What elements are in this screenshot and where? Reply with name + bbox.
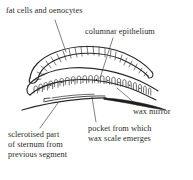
label-sclerotised-part-of-sternum: sclerotised partof sternum fromprevious … [8,130,67,161]
leader-pocket [92,97,96,122]
label-sclerotised-line-2: of sternum from [8,140,67,150]
label-pocket-line-1: pocket from which [88,124,152,134]
label-pocket-from-which-wax-scale-emerges: pocket from whichwax scale emerges [88,124,152,144]
columnar-left-tip [27,86,30,95]
label-wax-mirror: wax mirror [133,107,171,117]
fat-body-right-tip [148,72,153,78]
sternum-inner-line [45,96,105,102]
label-columnar-epithelium: columnar epithelium [85,27,155,37]
label-sclerotised-line-3: previous segment [8,150,67,160]
label-sclerotised-line-1: sclerotised part [8,130,67,140]
label-pocket-line-2: wax scale emerges [88,134,152,144]
label-fat-cells-and-oenocytes: fat cells and oenocytes [6,6,82,16]
leader-fat-cells [55,20,66,52]
columnar-cell-layer [27,68,158,100]
fat-body-outer-edge [30,46,152,78]
fat-body-layer [29,46,153,83]
leader-sclerotised [40,103,58,128]
